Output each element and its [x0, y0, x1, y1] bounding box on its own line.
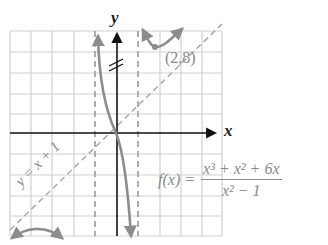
point-label: (2,8): [165, 49, 196, 67]
function-formula: f(x) = x³ + x² + 6x x² − 1: [158, 160, 282, 200]
x-axis-label: x: [224, 121, 233, 141]
point-2-8: [152, 44, 158, 50]
formula-lhs: f(x) =: [158, 171, 195, 189]
formula-numerator: x³ + x² + 6x: [201, 160, 282, 180]
y-axis-label: y: [111, 8, 119, 28]
axis-break-icon: [109, 59, 123, 71]
formula-fraction: x³ + x² + 6x x² − 1: [201, 160, 282, 200]
function-graph: [0, 0, 328, 245]
formula-denominator: x² − 1: [222, 180, 261, 200]
